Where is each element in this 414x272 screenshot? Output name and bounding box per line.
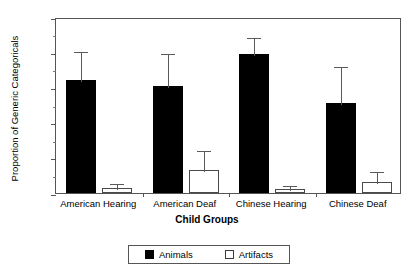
error-bar-cap [74,52,88,53]
y-tick-major [51,89,56,90]
legend-item-animals: Animals [145,249,193,260]
plot-area: 0.0.2.4.6.81.0 [55,18,401,194]
error-bar-stem [204,151,205,172]
error-bar-cap [161,54,175,55]
y-tick-minor [53,177,56,178]
x-axis-title: Child Groups [0,214,414,225]
bar-chart-figure: Proportion of Generic Categoricals 0.0.2… [0,0,414,272]
y-tick-minor [53,107,56,108]
error-bar-stem [341,67,342,106]
x-tick [316,193,317,197]
legend-item-artifacts: Artifacts [225,249,273,260]
error-bar-cap [247,38,261,39]
error-bar-cap [370,172,384,173]
y-tick-major [51,54,56,55]
x-tick-label: Chinese Hearing [228,198,315,209]
y-tick-minor [53,36,56,37]
legend-label-artifacts: Artifacts [239,249,273,260]
x-tick-label: American Hearing [55,198,142,209]
bar-animals-american-hearing [66,80,96,193]
error-bar-stem [254,38,255,56]
error-bar-cap [283,186,297,187]
y-tick-major [51,159,56,160]
y-axis-title: Proportion of Generic Categoricals [9,21,20,197]
bar-animals-chinese-deaf [326,103,356,193]
filled-square-icon [145,250,154,259]
y-tick-major [51,195,56,196]
y-tick-major [51,124,56,125]
error-bar-cap [110,184,124,185]
x-tick-label: American Deaf [142,198,229,209]
legend-label-animals: Animals [159,249,193,260]
legend: Animals Artifacts [128,245,290,264]
x-tick-label: Chinese Deaf [315,198,402,209]
x-tick [143,193,144,197]
error-bar-cap [197,151,211,152]
error-bar-cap [334,67,348,68]
y-tick-minor [53,142,56,143]
error-bar-stem [81,52,82,82]
error-bar-stem [377,172,378,184]
x-tick [229,193,230,197]
error-bar-stem [168,54,169,87]
bar-animals-chinese-hearing [239,54,269,193]
y-tick-major [51,19,56,20]
bar-animals-american-deaf [153,86,183,193]
y-tick-minor [53,71,56,72]
bar-artifacts-american-deaf [189,170,219,193]
open-square-icon [225,250,234,259]
